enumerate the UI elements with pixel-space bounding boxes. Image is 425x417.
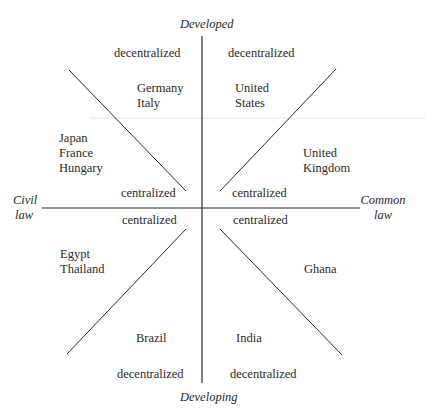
axis-label-common-law: Common law [358,193,408,223]
country-india: India [236,331,262,346]
country-group-germany-italy: Germany Italy [137,81,184,111]
zone-label-upper-left-centralized: centralized [121,186,176,201]
zone-label-lower-right-decentralized: decentralized [230,367,297,382]
country-brazil: Brazil [136,331,167,346]
axis-label-civil-law: Civil law [13,193,35,223]
zone-label-lower-left-centralized: centralized [122,213,177,228]
axis-label-developing: Developing [180,390,238,405]
country-group-united-kingdom: United Kingdom [303,146,350,176]
country-group-japan-france-hungary: Japan France Hungary [59,131,103,176]
zone-label-upper-right-centralized: centralized [232,186,287,201]
zone-label-upper-right-decentralized: decentralized [228,46,295,61]
axis-label-developed: Developed [180,17,233,32]
zone-label-lower-left-decentralized: decentralized [117,367,184,382]
legal-system-diagram: Developed Developing Civil law Common la… [0,0,425,417]
zone-label-lower-right-centralized: centralized [233,213,288,228]
country-group-united-states: United States [235,81,269,111]
zone-label-upper-left-decentralized: decentralized [114,46,181,61]
country-ghana: Ghana [304,262,337,277]
country-group-egypt-thailand: Egypt Thailand [60,247,104,277]
